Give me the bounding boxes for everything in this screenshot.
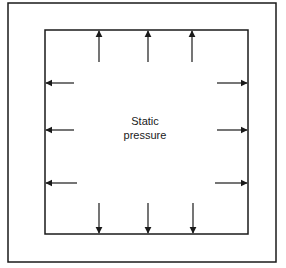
left-pressure-arrows <box>46 83 77 183</box>
right-pressure-arrows <box>215 83 247 183</box>
label-static: Static <box>131 115 159 127</box>
static-pressure-diagram: Static pressure <box>0 0 286 268</box>
top-pressure-arrows <box>99 31 192 62</box>
bottom-pressure-arrows <box>99 203 193 233</box>
label-pressure: pressure <box>124 129 167 141</box>
